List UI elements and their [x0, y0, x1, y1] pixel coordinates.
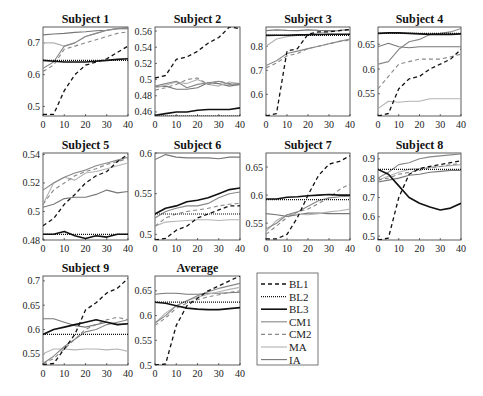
y-tick-label: 0.48 — [135, 90, 153, 101]
legend-label-ia: IA — [289, 354, 301, 366]
x-tick-label: 20 — [415, 119, 425, 130]
x-tick-label: 20 — [303, 119, 313, 130]
x-tick-label: 20 — [193, 368, 203, 379]
x-tick-label: 0 — [264, 243, 269, 254]
subplot-4: Subject 40102030400.550.60.65 — [358, 12, 467, 130]
x-tick-label: 0 — [41, 243, 46, 254]
legend-label-ma: MA — [289, 341, 307, 353]
x-tick-label: 20 — [303, 243, 313, 254]
subplot-title: Subject 9 — [62, 261, 110, 275]
plot-frame — [155, 153, 240, 240]
subplot-7: Subject 70102030400.550.60.65 — [246, 138, 356, 254]
x-tick-label: 20 — [81, 368, 91, 379]
y-tick-label: 0.65 — [23, 300, 41, 311]
y-tick-label: 0.54 — [23, 149, 41, 160]
y-tick-label: 0.6 — [140, 310, 153, 321]
x-tick-label: 0 — [41, 119, 46, 130]
subplot-title: Subject 8 — [396, 138, 444, 152]
plot-frame — [43, 276, 128, 365]
subplot-title: Subject 1 — [62, 12, 110, 26]
y-tick-label: 0.6 — [251, 190, 264, 201]
subplot-title: Subject 7 — [284, 138, 332, 152]
x-tick-label: 20 — [81, 119, 91, 130]
y-tick-label: 0.6 — [251, 89, 264, 100]
x-tick-label: 0 — [153, 243, 158, 254]
subplot-2: Subject 20102030400.460.480.50.520.540.5… — [135, 12, 246, 130]
subplot-8: Subject 80102030400.50.60.70.80.9 — [363, 138, 467, 254]
y-tick-label: 0.5 — [363, 231, 376, 242]
x-tick-label: 10 — [59, 243, 69, 254]
x-tick-label: 30 — [435, 119, 445, 130]
x-tick-label: 40 — [123, 368, 133, 379]
x-tick-label: 10 — [171, 119, 181, 130]
subplot-3: Subject 30102030400.60.70.8 — [251, 12, 356, 130]
x-tick-label: 40 — [123, 243, 133, 254]
y-tick-label: 0.6 — [28, 69, 41, 80]
x-tick-label: 40 — [235, 119, 245, 130]
x-tick-label: 0 — [153, 368, 158, 379]
y-tick-label: 0.55 — [358, 88, 376, 99]
y-tick-label: 0.7 — [28, 275, 41, 286]
x-tick-label: 10 — [282, 243, 292, 254]
legend-label-bl3: BL3 — [289, 303, 309, 315]
x-tick-label: 30 — [102, 243, 112, 254]
x-tick-label: 30 — [435, 243, 445, 254]
x-tick-label: 40 — [345, 243, 355, 254]
y-tick-label: 0.6 — [363, 211, 376, 222]
subplot-6: Subject 60102030400.50.550.6 — [135, 138, 246, 254]
x-tick-label: 20 — [193, 243, 203, 254]
subplot-title: Subject 3 — [284, 12, 332, 26]
y-tick-label: 0.7 — [363, 192, 376, 203]
legend-label-cm2: CM2 — [289, 328, 312, 340]
y-tick-label: 0.65 — [246, 162, 264, 173]
y-tick-label: 0.48 — [23, 235, 41, 246]
x-tick-label: 0 — [376, 119, 381, 130]
x-tick-label: 10 — [59, 368, 69, 379]
y-tick-label: 0.5 — [140, 360, 153, 371]
y-tick-label: 0.7 — [28, 37, 41, 48]
subplot-title: Subject 4 — [396, 12, 444, 26]
x-tick-label: 40 — [456, 119, 466, 130]
x-tick-label: 0 — [41, 368, 46, 379]
y-tick-label: 0.65 — [135, 285, 153, 296]
y-tick-label: 0.5 — [28, 206, 41, 217]
y-tick-label: 0.52 — [135, 58, 153, 69]
plot-frame — [43, 27, 128, 116]
y-tick-label: 0.5 — [140, 229, 153, 240]
x-tick-label: 30 — [214, 119, 224, 130]
subplot-1: Subject 10102030400.50.60.7 — [28, 12, 134, 130]
x-tick-label: 20 — [193, 119, 203, 130]
subplot-10: Average0102030400.50.550.60.65 — [135, 261, 246, 379]
y-tick-label: 0.6 — [363, 64, 376, 75]
x-tick-label: 30 — [102, 368, 112, 379]
subplot-title: Subject 2 — [174, 12, 222, 26]
figure-grid: Subject 10102030400.50.60.7Subject 20102… — [0, 0, 483, 396]
y-tick-label: 0.9 — [363, 153, 376, 164]
y-tick-label: 0.5 — [140, 74, 153, 85]
y-tick-label: 0.5 — [28, 101, 41, 112]
x-tick-label: 10 — [282, 119, 292, 130]
x-tick-label: 40 — [345, 119, 355, 130]
y-tick-label: 0.65 — [358, 39, 376, 50]
x-tick-label: 40 — [123, 119, 133, 130]
y-tick-label: 0.55 — [23, 348, 41, 359]
x-tick-label: 30 — [102, 119, 112, 130]
x-tick-label: 30 — [324, 119, 334, 130]
legend-label-cm1: CM1 — [289, 316, 312, 328]
x-tick-label: 30 — [324, 243, 334, 254]
y-tick-label: 0.8 — [363, 173, 376, 184]
subplot-title: Average — [177, 261, 219, 275]
subplot-9: Subject 90102030400.550.60.650.7 — [23, 261, 134, 379]
x-tick-label: 0 — [153, 119, 158, 130]
x-tick-label: 40 — [456, 243, 466, 254]
x-tick-label: 10 — [171, 368, 181, 379]
x-tick-label: 10 — [59, 119, 69, 130]
subplot-5: Subject 50102030400.480.50.520.54 — [23, 138, 134, 254]
y-tick-label: 0.46 — [135, 106, 153, 117]
x-tick-label: 40 — [235, 368, 245, 379]
x-tick-label: 10 — [171, 243, 181, 254]
y-tick-label: 0.56 — [135, 26, 153, 37]
y-tick-label: 0.52 — [23, 177, 41, 188]
y-tick-label: 0.55 — [246, 218, 264, 229]
y-tick-label: 0.8 — [251, 41, 264, 52]
